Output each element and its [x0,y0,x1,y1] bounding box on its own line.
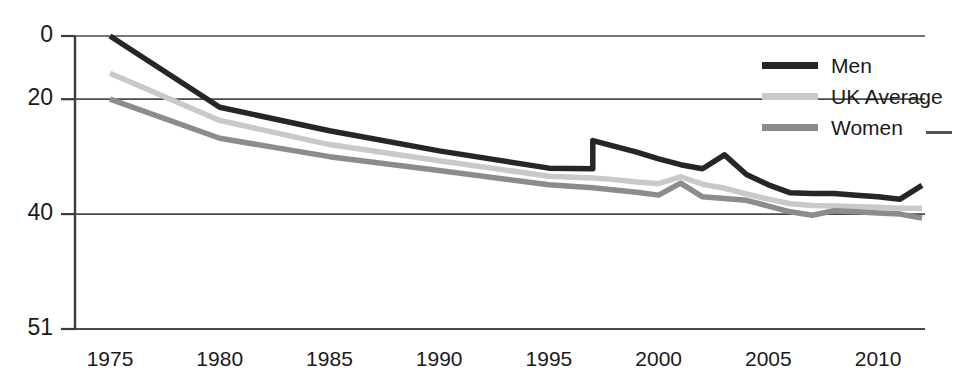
y-tick-label: 20 [27,84,53,111]
x-tick-label: 1995 [499,347,599,371]
legend-item-men[interactable]: Men [762,50,962,81]
x-tick-label: 2005 [718,347,818,371]
legend-swatch-icon [762,93,818,100]
stray-dash-mark [926,131,952,134]
x-tick-label: 1985 [279,347,379,371]
legend-label: Women [831,116,903,140]
y-tick-label: 51 [27,314,53,341]
legend-swatch-icon [762,62,818,69]
y-tick-label: 0 [40,21,53,48]
x-tick-label: 2010 [828,347,928,371]
legend-label: Men [831,54,872,78]
chart-legend: MenUK AverageWomen [762,50,962,143]
legend-label: UK Average [831,85,943,109]
x-tick-label: 1980 [170,347,270,371]
legend-item-uk-average[interactable]: UK Average [762,81,962,112]
x-tick-label: 2000 [609,347,709,371]
legend-swatch-icon [762,124,818,131]
x-tick-label: 1975 [60,347,160,371]
line-chart: 5140200 19751980198519901995200020052010… [0,0,968,383]
legend-item-women[interactable]: Women [762,112,962,143]
y-tick-label: 40 [27,199,53,226]
x-tick-label: 1990 [389,347,489,371]
